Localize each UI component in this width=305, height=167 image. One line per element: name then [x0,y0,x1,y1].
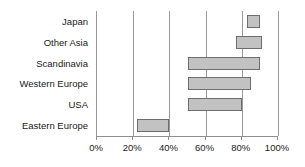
x-tick-mark-100 [277,136,278,140]
range-bar-chart: JapanOther AsiaScandinaviaWestern Europe… [0,0,305,167]
x-tick-label-60: 60% [195,142,214,153]
x-tick-label-100: 100% [265,142,289,153]
category-label-usa: USA [68,99,88,110]
x-tick-mark-40 [168,136,169,140]
x-tick-mark-80 [241,136,242,140]
category-label-other-asia: Other Asia [44,37,88,48]
x-tick-mark-20 [132,136,133,140]
bar-other-asia [236,36,261,49]
plot-area [96,11,279,136]
bar-eastern-europe [137,119,170,132]
x-tick-mark-60 [205,136,206,140]
category-label-western-europe: Western Europe [20,78,88,89]
category-label-eastern-europe: Eastern Europe [22,120,88,131]
category-label-japan: Japan [62,16,88,27]
gridline-40 [169,11,170,136]
x-tick-label-40: 40% [159,142,178,153]
x-tick-label-20: 20% [123,142,142,153]
gridline-80 [242,11,243,136]
bar-usa [188,98,242,111]
gridline-60 [206,11,207,136]
bar-japan [247,15,260,28]
x-tick-label-0: 0% [89,142,103,153]
category-label-scandinavia: Scandinavia [36,58,88,69]
x-tick-label-80: 80% [231,142,250,153]
bar-scandinavia [188,57,260,70]
x-axis-line [96,136,278,137]
gridline-20 [133,11,134,136]
bar-western-europe [188,77,251,90]
x-tick-mark-0 [96,136,97,140]
category-label-column: JapanOther AsiaScandinaviaWestern Europe… [0,0,92,136]
